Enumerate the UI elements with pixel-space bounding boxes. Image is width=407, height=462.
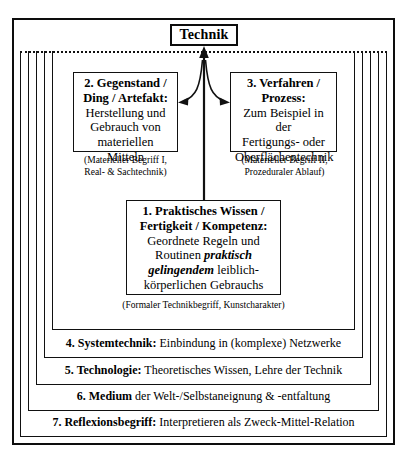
- box1-body-line3: gelingendem leiblich-: [131, 263, 276, 278]
- box1-caption-text: (Formaler Technikbegriff, Kunstcharakter…: [122, 300, 284, 310]
- box1-body-line2-plain: Routinen: [155, 248, 204, 262]
- diagram-canvas: Technik 2. Gegenstand / Ding / Artefakt:…: [0, 0, 407, 462]
- band5-rest: Theoretisches Wissen, Lehre der Technik: [142, 363, 343, 377]
- technik-label: Technik: [179, 27, 228, 43]
- box1-body-line2-emph: praktisch: [204, 248, 252, 262]
- box1-body-line3-plain: leiblich-: [214, 263, 259, 277]
- band5-bold: 5. Technologie:: [65, 363, 142, 377]
- concept-box-1-praktisches-wissen: 1. Praktisches Wissen / Fertigkeit / Kom…: [126, 200, 281, 295]
- band-4-systemtechnik: 4. Systemtechnik: Einbindung in (komplex…: [46, 336, 361, 350]
- band4-bold: 4. Systemtechnik:: [66, 336, 157, 350]
- box1-title-line2: Fertigkeit / Kompetenz:: [131, 219, 276, 234]
- band6-bold: 6. Medium: [77, 389, 132, 403]
- box3-title-line1: 3. Verfahren /: [235, 76, 332, 91]
- box1-title-line1: 1. Praktisches Wissen /: [131, 204, 276, 219]
- box2-body-line2: Gebrauch von: [78, 120, 173, 135]
- concept-box-2-gegenstand: 2. Gegenstand / Ding / Artefakt: Herstel…: [73, 72, 178, 152]
- band-6-medium: 6. Medium der Welt-/Selbstaneignung & -e…: [30, 389, 377, 403]
- box3-body-line1: Zum Beispiel in der: [235, 106, 332, 136]
- band7-rest: Interpretieren als Zweck-Mittel-Relation: [156, 415, 354, 429]
- box2-caption: (Materieller Begriff I, Real- & Sachtech…: [63, 155, 188, 178]
- box2-caption-line1: (Materieller Begriff I,: [84, 155, 167, 165]
- box2-title-line2: Ding / Artefakt:: [78, 91, 173, 106]
- box3-title-line2: Prozess:: [235, 91, 332, 106]
- band-7-reflexionsbegriff: 7. Reflexionsbegriff: Interpretieren als…: [22, 415, 385, 429]
- band6-rest: der Welt-/Selbstaneignung & -entfaltung: [132, 389, 330, 403]
- band7-bold: 7. Reflexionsbegriff:: [52, 415, 156, 429]
- box1-caption: (Formaler Technikbegriff, Kunstcharakter…: [86, 300, 321, 312]
- box3-caption-line2: Prozeduraler Ablauf): [245, 167, 325, 177]
- box2-body-line1: Herstellung und: [78, 106, 173, 121]
- band4-rest: Einbindung in (komplexe) Netzwerke: [157, 336, 342, 350]
- box3-caption: (Materieller Begriff II, Prozeduraler Ab…: [222, 155, 347, 178]
- technik-box: Technik: [170, 24, 238, 46]
- box3-caption-line1: (Materieller Begriff II,: [241, 155, 327, 165]
- band-5-technologie: 5. Technologie: Theoretisches Wissen, Le…: [38, 363, 369, 377]
- box1-body-line1: Geordnete Regeln und: [131, 234, 276, 249]
- box1-body-line4: körperlichen Gebrauchs: [131, 278, 276, 293]
- box1-body-line3-emph: gelingendem: [148, 263, 214, 277]
- box2-title-line1: 2. Gegenstand /: [78, 76, 173, 91]
- box3-body-line2: Fertigungs- oder: [235, 135, 332, 150]
- concept-box-3-verfahren: 3. Verfahren / Prozess: Zum Beispiel in …: [230, 72, 337, 152]
- box2-caption-line2: Real- & Sachtechnik): [84, 167, 166, 177]
- box1-body-line2: Routinen praktisch: [131, 248, 276, 263]
